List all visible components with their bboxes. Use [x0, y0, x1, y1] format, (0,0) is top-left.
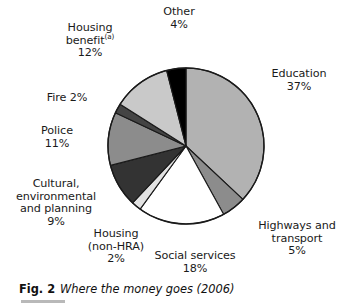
pie-chart — [106, 66, 266, 226]
pie-label-education-percent: 37% — [256, 81, 342, 94]
pie-label-highways-line1: Highways and — [248, 220, 346, 233]
figure-container: Other 4% Housing benefit(a) 12% Educatio… — [0, 0, 348, 306]
pie-label-police-percent: 11% — [24, 138, 90, 151]
pie-label-cultural-environmental-and-planning: Cultural, environmental and planning 9% — [2, 178, 110, 228]
pie-label-housing-benefit-name2: benefit — [66, 34, 105, 47]
pie-label-other-name: Other — [138, 6, 220, 19]
figure-number: Fig. 2 — [19, 282, 55, 296]
pie-label-other: Other 4% — [138, 6, 220, 31]
pie-label-cultural-line1: Cultural, — [2, 178, 110, 191]
caption-rule — [21, 300, 65, 303]
pie-label-housing-benefit-footnote: (a) — [104, 32, 114, 41]
pie-label-fire: Fire 2% — [30, 92, 104, 105]
pie-label-housing-non-hra-line1: Housing — [76, 228, 156, 241]
pie-label-other-percent: 4% — [138, 19, 220, 32]
pie-label-education-name: Education — [256, 68, 342, 81]
figure-caption-text: Where the money goes (2006) — [60, 282, 234, 296]
figure-caption: Fig. 2Where the money goes (2006) — [19, 283, 234, 296]
pie-label-education: Education 37% — [256, 68, 342, 93]
pie-label-social-services-name: Social services — [142, 250, 248, 263]
pie-label-police-name: Police — [24, 125, 90, 138]
pie-label-police: Police 11% — [24, 125, 90, 150]
pie-label-highways-and-transport: Highways and transport 5% — [248, 220, 346, 258]
pie-label-highways-percent: 5% — [248, 245, 346, 258]
pie-label-fire-name: Fire 2% — [30, 92, 104, 105]
pie-label-social-services: Social services 18% — [142, 250, 248, 275]
pie-label-social-services-percent: 18% — [142, 263, 248, 276]
pie-label-housing-benefit: Housing benefit(a) 12% — [44, 22, 136, 60]
pie-label-cultural-line3: and planning — [2, 203, 110, 216]
pie-label-housing-benefit-percent: 12% — [44, 47, 136, 60]
